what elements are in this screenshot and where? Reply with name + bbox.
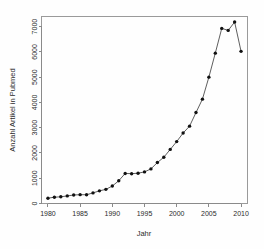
data-point	[239, 50, 242, 53]
plot-border	[42, 17, 248, 204]
y-tick-label: 2000	[31, 145, 38, 161]
data-point	[175, 140, 178, 143]
data-point	[214, 51, 217, 54]
plot-frame	[42, 17, 248, 204]
data-point	[91, 191, 94, 194]
x-tick-label: 2000	[169, 210, 185, 217]
data-point	[207, 75, 210, 78]
chart-canvas: 01000200030004000500060007000 1980198519…	[0, 0, 264, 249]
x-tick-label: 2010	[233, 210, 249, 217]
data-point	[226, 29, 229, 32]
pubmed-article-count-chart: 01000200030004000500060007000 1980198519…	[0, 0, 264, 249]
y-tick-label: 1000	[31, 170, 38, 186]
data-point	[98, 189, 101, 192]
x-axis-title: Jahr	[137, 229, 152, 238]
data-point	[233, 20, 236, 23]
data-point	[169, 148, 172, 151]
data-point	[181, 131, 184, 134]
y-axis-ticks: 01000200030004000500060007000	[31, 19, 41, 206]
data-point	[143, 170, 146, 173]
data-point	[162, 156, 165, 159]
x-tick-label: 2005	[201, 210, 217, 217]
data-point	[66, 194, 69, 197]
data-point	[156, 161, 159, 164]
data-point	[59, 195, 62, 198]
data-point	[117, 179, 120, 182]
x-tick-label: 1980	[40, 210, 56, 217]
y-tick-label: 4000	[31, 95, 38, 111]
data-point	[53, 195, 56, 198]
y-tick-label: 3000	[31, 120, 38, 136]
data-series-group	[46, 20, 243, 200]
x-tick-label: 1985	[72, 210, 88, 217]
y-tick-label: 0	[31, 201, 38, 205]
data-point	[201, 97, 204, 100]
data-point	[194, 111, 197, 114]
series-points-group	[46, 20, 243, 200]
x-tick-label: 1995	[137, 210, 153, 217]
data-point	[85, 193, 88, 196]
data-point	[123, 172, 126, 175]
data-point	[188, 124, 191, 127]
data-point	[111, 184, 114, 187]
y-tick-label: 5000	[31, 69, 38, 85]
y-tick-label: 7000	[31, 19, 38, 35]
data-point	[72, 193, 75, 196]
data-point	[130, 172, 133, 175]
y-tick-label: 6000	[31, 44, 38, 60]
data-point	[220, 27, 223, 30]
data-point	[136, 171, 139, 174]
data-point	[78, 193, 81, 196]
data-point	[149, 167, 152, 170]
x-tick-label: 1990	[105, 210, 121, 217]
data-point	[46, 196, 49, 199]
y-axis-title: Anzahl Artikel in Pubmed	[8, 68, 17, 151]
data-point	[104, 188, 107, 191]
x-axis-ticks: 1980198519901995200020052010	[40, 204, 249, 217]
